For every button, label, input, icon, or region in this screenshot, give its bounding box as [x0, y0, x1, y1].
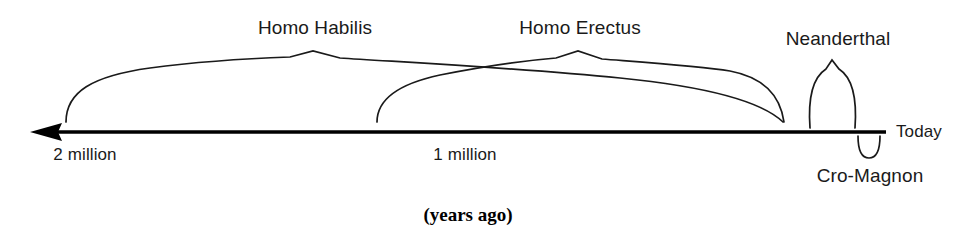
label-cro-magnon: Cro-Magnon	[817, 166, 924, 185]
timeline-arrowhead	[30, 123, 62, 141]
axis-label-today: Today	[896, 123, 942, 140]
figure-caption: (years ago)	[423, 205, 512, 224]
evolution-timeline-figure: Homo Habilis Homo Erectus Neanderthal Cr…	[0, 0, 980, 239]
cro-magnon-arc	[858, 136, 880, 158]
neanderthal-arc	[810, 60, 856, 128]
axis-tick-1-million: 1 million	[433, 146, 496, 163]
label-neanderthal: Neanderthal	[786, 29, 891, 48]
label-homo-habilis: Homo Habilis	[258, 18, 372, 37]
axis-tick-2-million: 2 million	[53, 146, 116, 163]
homo-habilis-arc	[66, 51, 783, 122]
homo-erectus-arc	[377, 51, 784, 122]
label-homo-erectus: Homo Erectus	[519, 18, 641, 37]
